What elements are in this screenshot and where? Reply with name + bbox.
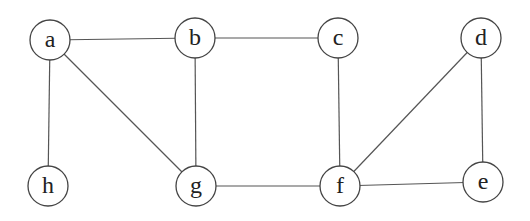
edge-a-g	[50, 40, 196, 186]
edge-d-e	[481, 38, 483, 182]
node-label: f	[336, 172, 344, 198]
edge-f-d	[340, 38, 481, 186]
node-a: a	[30, 20, 70, 60]
node-label: d	[475, 24, 487, 50]
node-label: e	[478, 168, 489, 194]
edge-b-g	[195, 38, 196, 186]
node-f: f	[320, 166, 360, 206]
edge-c-f	[338, 38, 340, 186]
node-h: h	[28, 166, 68, 206]
node-label: g	[190, 172, 202, 198]
node-b: b	[175, 18, 215, 58]
edge-a-h	[48, 40, 50, 186]
edge-f-e	[340, 182, 483, 186]
node-g: g	[176, 166, 216, 206]
node-e: e	[463, 162, 503, 202]
node-label: b	[189, 24, 201, 50]
node-label: h	[42, 172, 54, 198]
edges-layer	[48, 38, 483, 186]
nodes-layer: abcdhgfe	[28, 18, 503, 206]
node-label: c	[333, 24, 344, 50]
edge-a-b	[50, 38, 195, 40]
node-d: d	[461, 18, 501, 58]
node-label: a	[45, 26, 56, 52]
node-c: c	[318, 18, 358, 58]
graph-diagram: abcdhgfe	[0, 0, 530, 221]
